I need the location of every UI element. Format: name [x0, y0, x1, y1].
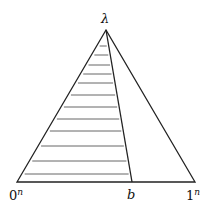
- one-n-label: 1n: [186, 188, 200, 202]
- hatch-lines: [25, 46, 129, 174]
- outer-triangle: [17, 30, 195, 182]
- zero-n-label: 0n: [9, 188, 23, 202]
- apex-label: λ: [101, 12, 109, 25]
- triangle-diagram: [0, 0, 211, 210]
- b-label: b: [127, 188, 135, 201]
